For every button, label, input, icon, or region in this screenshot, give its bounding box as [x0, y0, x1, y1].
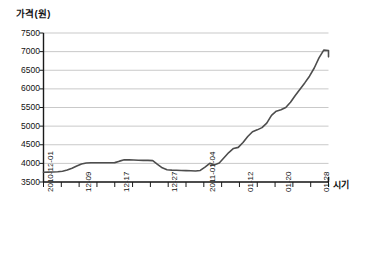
- x-axis-ticks: [44, 182, 329, 187]
- data-series-line: [44, 50, 329, 172]
- plot-area: [0, 0, 365, 256]
- price-line-chart: 가격(원) 시기 3500400045005000550060006500700…: [0, 0, 365, 256]
